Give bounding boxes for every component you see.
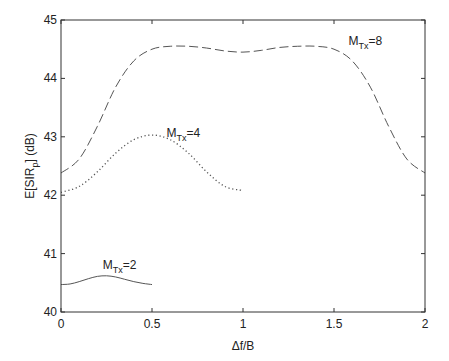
annotation-subscript: Tx bbox=[177, 133, 187, 143]
series-annotation: MTx=8 bbox=[349, 34, 383, 51]
annotation-suffix: =4 bbox=[187, 126, 201, 140]
annotation-subscript: Tx bbox=[359, 41, 369, 51]
annotation-subscript: Tx bbox=[113, 265, 123, 275]
series-line-m-tx-8 bbox=[61, 46, 425, 173]
x-tick-label: 2 bbox=[422, 317, 429, 331]
y-tick-label: 44 bbox=[44, 71, 58, 85]
series-annotation: MTx=2 bbox=[103, 258, 137, 275]
y-axis-label-main: E[SIR bbox=[23, 167, 37, 199]
x-tick-label: 0 bbox=[58, 317, 65, 331]
y-axis-label: E[SIRp] (dB) bbox=[23, 133, 40, 199]
annotation-layer: MTx=8MTx=4MTx=2 bbox=[103, 34, 383, 275]
annotation-base: M bbox=[167, 126, 177, 140]
series-layer bbox=[61, 46, 425, 285]
annotation-suffix: =2 bbox=[123, 258, 137, 272]
x-axis-label: Δf/B bbox=[232, 339, 255, 353]
annotation-base: M bbox=[103, 258, 113, 272]
x-tick-label: 1.5 bbox=[326, 317, 343, 331]
annotation-suffix: =8 bbox=[369, 34, 383, 48]
annotation-base: M bbox=[349, 34, 359, 48]
x-tick-label: 1 bbox=[240, 317, 247, 331]
axes: 00.511.52404142434445 bbox=[44, 13, 429, 331]
y-tick-label: 42 bbox=[44, 188, 58, 202]
chart-canvas: MTx=8MTx=4MTx=2 00.511.52404142434445 Δf… bbox=[0, 0, 449, 361]
y-tick-label: 43 bbox=[44, 130, 58, 144]
y-axis-label-tail: ] (dB) bbox=[23, 133, 37, 162]
series-line-m-tx-2 bbox=[61, 276, 152, 285]
series-annotation: MTx=4 bbox=[167, 126, 201, 143]
y-tick-label: 40 bbox=[44, 305, 58, 319]
y-tick-label: 41 bbox=[44, 247, 58, 261]
x-tick-label: 0.5 bbox=[144, 317, 161, 331]
y-tick-label: 45 bbox=[44, 13, 58, 27]
